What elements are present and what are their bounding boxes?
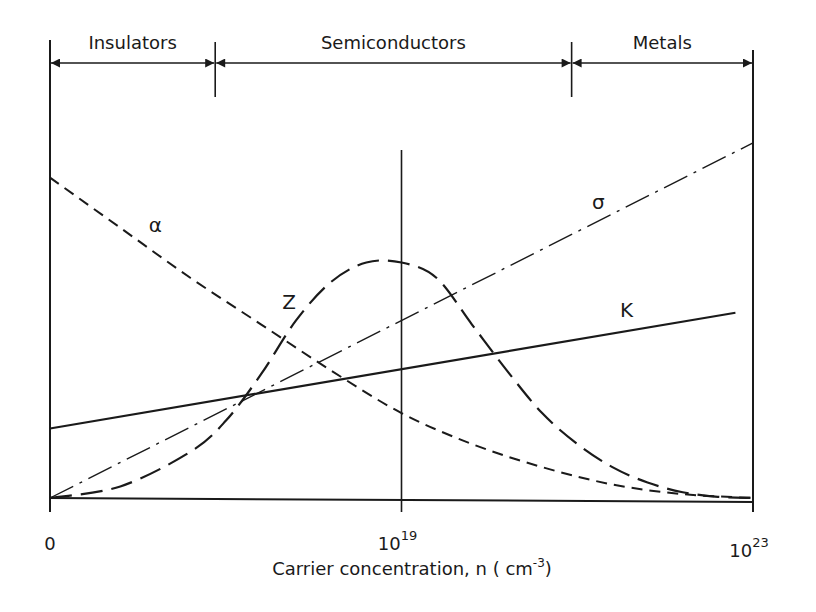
curve-label: K [620, 298, 634, 322]
curve-label: Z [282, 290, 296, 314]
region-markers: InsulatorsSemiconductorsMetals [51, 32, 752, 97]
x-tick-base: 0 [44, 533, 55, 554]
x-tick-label: 1023 [729, 535, 768, 561]
x-axis-label-suffix: ) [545, 558, 552, 579]
axes [50, 40, 753, 512]
x-axis-label: Carrier concentration, n ( cm-3) [272, 556, 552, 579]
curve-k [50, 313, 735, 429]
curve-label: σ [592, 190, 605, 214]
x-tick-label: 0 [44, 533, 55, 554]
carrier-concentration-diagram: InsulatorsSemiconductorsMetals 010191023… [0, 0, 816, 612]
region-label-metals: Metals [633, 32, 692, 53]
x-tick-exponent: 19 [401, 528, 418, 543]
region-label-semiconductors: Semiconductors [321, 32, 466, 53]
x-tick-base: 10 [729, 540, 752, 561]
x-tick-exponent: 23 [752, 535, 769, 550]
curve-label: α [149, 213, 162, 237]
x-axis-label-main: Carrier concentration, n ( cm [272, 558, 533, 579]
x-tick-base: 10 [378, 533, 401, 554]
x-tick-label: 1019 [378, 528, 417, 554]
labels: 010191023σKαZ [44, 190, 768, 562]
region-label-insulators: Insulators [88, 32, 176, 53]
x-axis-label-exponent: -3 [533, 556, 545, 570]
